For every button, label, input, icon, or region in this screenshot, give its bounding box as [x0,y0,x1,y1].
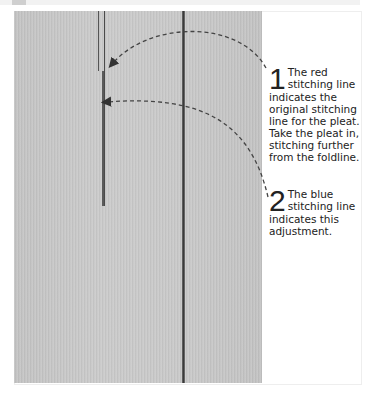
arrow-2 [106,101,268,197]
callout-2-lead: The blue [288,188,334,200]
callout-2-line2: stitching line [288,200,356,212]
callout-1-body: indicates the original stitching line fo… [269,91,361,163]
callout-2-body: indicates this adjustment. [269,213,361,237]
arrow-1 [112,31,266,68]
callout-1: 1 The red stitching line indicates the o… [269,66,361,163]
callout-1-line2: stitching line [288,78,356,90]
callout-2: 2 The blue stitching line indicates this… [269,188,361,237]
callout-1-lead: The red [288,66,328,78]
callout-2-number: 2 [269,189,286,213]
callout-1-number: 1 [269,67,286,91]
